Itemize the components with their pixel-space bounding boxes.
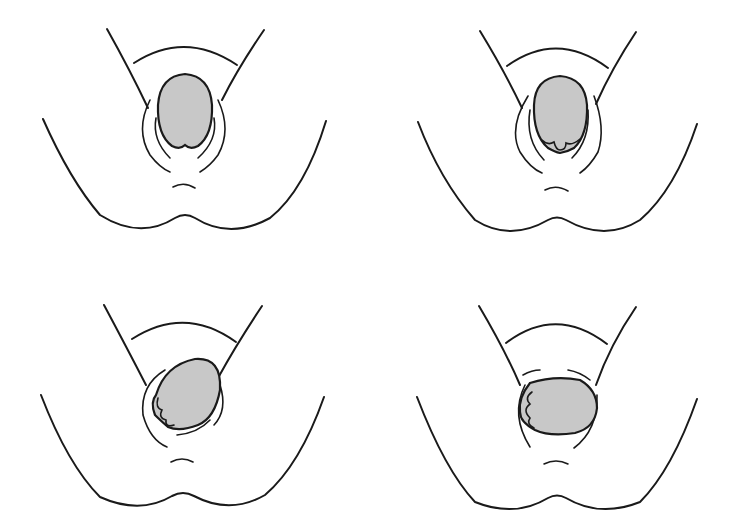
left-thigh-line xyxy=(107,29,148,108)
left-thigh-line xyxy=(479,306,520,385)
right-thigh-line xyxy=(596,32,636,104)
pubic-arc xyxy=(507,48,608,68)
pubic-arc xyxy=(134,47,237,65)
crowning-diagram-figure xyxy=(0,0,732,530)
panel-2 xyxy=(418,31,697,231)
right-thigh-line xyxy=(222,30,264,100)
labia-upper-left xyxy=(523,370,540,375)
left-thigh-line xyxy=(104,305,146,385)
right-thigh-line xyxy=(596,307,636,385)
right-thigh-line xyxy=(218,306,262,378)
diagram-canvas xyxy=(0,0,732,530)
anus-mark xyxy=(544,461,568,464)
panel-4 xyxy=(417,306,697,509)
anus-mark xyxy=(545,187,568,191)
anus-mark xyxy=(171,459,193,462)
anus-mark xyxy=(173,184,195,188)
fetal-head xyxy=(534,76,587,153)
fetal-head xyxy=(158,74,212,148)
panel-1 xyxy=(43,29,326,229)
pubic-arc xyxy=(132,323,236,342)
panel-3 xyxy=(41,305,324,506)
left-thigh-line xyxy=(480,31,522,108)
pubic-arc xyxy=(506,324,607,344)
